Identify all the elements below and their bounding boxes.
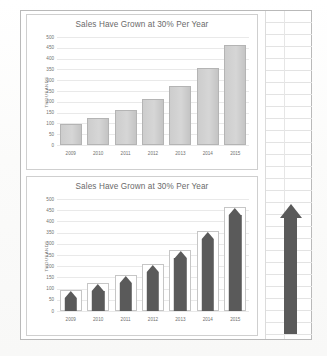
y-tick-label: 250 bbox=[46, 253, 57, 258]
x-tick-label: 2010 bbox=[87, 151, 109, 161]
up-arrow-icon bbox=[174, 258, 186, 311]
y-tick-label: 150 bbox=[46, 110, 57, 115]
y-tick-label: 350 bbox=[46, 67, 57, 72]
slide-canvas: Sales Have Grown at 30% Per Year THOUSAN… bbox=[0, 0, 327, 356]
bar-column[interactable] bbox=[224, 37, 246, 145]
y-tick-label: 100 bbox=[46, 286, 57, 291]
y-tick-label: 400 bbox=[46, 219, 57, 224]
bar-column[interactable] bbox=[115, 37, 137, 145]
bar-column[interactable] bbox=[142, 199, 164, 311]
up-arrow-icon bbox=[92, 291, 104, 311]
bar-column[interactable] bbox=[60, 37, 82, 145]
chart-panel-bottom[interactable]: Sales Have Grown at 30% Per Year THOUSAN… bbox=[26, 176, 258, 336]
y-tick-label: 250 bbox=[46, 89, 57, 94]
x-tick-label: 2012 bbox=[142, 151, 164, 161]
y-tick-label: 100 bbox=[46, 121, 57, 126]
up-arrow-icon bbox=[229, 215, 241, 311]
up-arrow-icon bbox=[119, 283, 131, 311]
bar-column[interactable] bbox=[60, 199, 82, 311]
bar-column[interactable] bbox=[224, 199, 246, 311]
y-tick-label: 500 bbox=[46, 35, 57, 40]
bar-column[interactable] bbox=[169, 37, 191, 145]
bar-2009[interactable] bbox=[60, 124, 82, 145]
y-tick-label: 500 bbox=[46, 197, 57, 202]
gridline: 0 bbox=[57, 311, 249, 312]
bar-2009[interactable] bbox=[60, 290, 82, 312]
up-arrow-icon bbox=[147, 272, 159, 311]
y-tick-label: 50 bbox=[49, 132, 57, 137]
y-tick-label: 50 bbox=[49, 297, 57, 302]
x-axis-labels-top: 2009201020112012201320142015 bbox=[57, 151, 249, 161]
bar-column[interactable] bbox=[87, 37, 109, 145]
chart-panel-top[interactable]: Sales Have Grown at 30% Per Year THOUSAN… bbox=[26, 14, 258, 170]
bar-column[interactable] bbox=[197, 199, 219, 311]
plot-area-top: 500450400350300250200150100500 bbox=[57, 37, 249, 145]
plot-area-bottom: 500450400350300250200150100500 bbox=[57, 199, 249, 311]
x-tick-label: 2010 bbox=[87, 317, 109, 327]
bar-2014[interactable] bbox=[197, 68, 219, 145]
bar-2012[interactable] bbox=[142, 264, 164, 311]
chart-title-bottom: Sales Have Grown at 30% Per Year bbox=[27, 182, 257, 191]
bar-2010[interactable] bbox=[87, 118, 109, 145]
bar-column[interactable] bbox=[142, 37, 164, 145]
bar-2011[interactable] bbox=[115, 275, 137, 311]
gridline: 0 bbox=[57, 145, 249, 146]
bar-column[interactable] bbox=[197, 37, 219, 145]
y-tick-label: 400 bbox=[46, 56, 57, 61]
x-tick-label: 2013 bbox=[169, 317, 191, 327]
y-tick-label: 450 bbox=[46, 45, 57, 50]
x-tick-label: 2012 bbox=[142, 317, 164, 327]
y-tick-label: 200 bbox=[46, 99, 57, 104]
bar-2015[interactable] bbox=[224, 45, 246, 145]
chart-title-top: Sales Have Grown at 30% Per Year bbox=[27, 20, 257, 29]
bar-2015[interactable] bbox=[224, 207, 246, 311]
x-tick-label: 2014 bbox=[197, 317, 219, 327]
bar-2013[interactable] bbox=[169, 86, 191, 145]
x-tick-label: 2015 bbox=[224, 151, 246, 161]
bar-2013[interactable] bbox=[169, 250, 191, 311]
x-tick-label: 2011 bbox=[115, 317, 137, 327]
x-tick-label: 2009 bbox=[60, 317, 82, 327]
up-arrow-icon bbox=[202, 239, 214, 311]
x-tick-label: 2014 bbox=[197, 151, 219, 161]
y-tick-label: 300 bbox=[46, 241, 57, 246]
up-arrow-icon bbox=[64, 298, 76, 312]
bar-column[interactable] bbox=[87, 199, 109, 311]
up-arrow-icon bbox=[284, 218, 297, 334]
bar-2010[interactable] bbox=[87, 283, 109, 311]
y-tick-label: 350 bbox=[46, 230, 57, 235]
x-tick-label: 2011 bbox=[115, 151, 137, 161]
y-tick-label: 300 bbox=[46, 78, 57, 83]
x-tick-label: 2009 bbox=[60, 151, 82, 161]
x-tick-label: 2015 bbox=[224, 317, 246, 327]
y-tick-label: 150 bbox=[46, 275, 57, 280]
bar-series-top bbox=[57, 37, 249, 145]
bar-2012[interactable] bbox=[142, 99, 164, 145]
y-tick-label: 200 bbox=[46, 264, 57, 269]
bar-column[interactable] bbox=[169, 199, 191, 311]
bar-2011[interactable] bbox=[115, 110, 137, 145]
bar-series-bottom bbox=[57, 199, 249, 311]
x-axis-labels-bottom: 2009201020112012201320142015 bbox=[57, 317, 249, 327]
bar-column[interactable] bbox=[115, 199, 137, 311]
y-tick-label: 450 bbox=[46, 208, 57, 213]
bar-2014[interactable] bbox=[197, 231, 219, 311]
x-tick-label: 2013 bbox=[169, 151, 191, 161]
